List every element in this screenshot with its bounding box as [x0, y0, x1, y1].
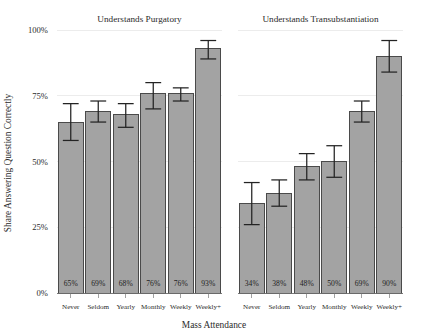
- x-axis-tick-label-yearly: Yearly: [116, 303, 135, 311]
- x-axis-tick-label-weekly: Weekly: [170, 303, 192, 311]
- chart-canvas: 0%25%50%75%100% Share Answering Question…: [0, 0, 425, 331]
- x-axis-tick-label-never: Never: [243, 303, 261, 311]
- bar-never: [58, 122, 83, 293]
- x-axis-tick-label-monthly: Monthly: [322, 303, 347, 311]
- x-axis-tick-label-weekly: Weekly: [351, 303, 373, 311]
- x-axis-tick-label-weekly-plus: Weekly+: [377, 303, 403, 311]
- y-axis-tick-label: 0%: [37, 288, 48, 298]
- bar-value-label: 93%: [201, 279, 216, 288]
- y-axis-tick-label: 25%: [32, 222, 48, 232]
- x-axis-title: Mass Attendance: [182, 320, 246, 330]
- bar-value-label: 69%: [355, 279, 370, 288]
- y-axis-tick-label: 100%: [28, 25, 48, 35]
- bar-value-label: 50%: [327, 279, 342, 288]
- bar-value-label: 34%: [245, 279, 260, 288]
- bar-value-label: 76%: [174, 279, 189, 288]
- bar-value-label: 65%: [64, 279, 79, 288]
- bar-value-label: 76%: [146, 279, 161, 288]
- bar-value-label: 48%: [300, 279, 315, 288]
- bar-monthly: [322, 162, 347, 294]
- bar-monthly: [141, 93, 166, 293]
- bar-weekly-plus: [377, 56, 402, 293]
- bar-seldom: [86, 112, 111, 293]
- bar-chart-figure: 0%25%50%75%100% Share Answering Question…: [0, 0, 425, 331]
- bar-value-label: 69%: [91, 279, 106, 288]
- bar-yearly: [113, 114, 138, 293]
- panel-title: Understands Transubstantiation: [262, 14, 379, 24]
- bar-value-label: 38%: [272, 279, 287, 288]
- bar-value-label: 68%: [119, 279, 134, 288]
- bar-value-label: 90%: [382, 279, 397, 288]
- x-axis-tick-label-yearly: Yearly: [297, 303, 316, 311]
- bar-weekly: [349, 112, 374, 293]
- x-axis-tick-label-monthly: Monthly: [141, 303, 166, 311]
- x-axis-tick-label-never: Never: [62, 303, 80, 311]
- x-axis-tick-label-seldom: Seldom: [87, 303, 109, 311]
- panel-title: Understands Purgatory: [97, 14, 182, 24]
- bar-weekly-plus: [196, 48, 221, 293]
- bar-yearly: [294, 167, 319, 293]
- x-axis-tick-label-seldom: Seldom: [268, 303, 290, 311]
- y-axis-tick-label: 75%: [32, 91, 48, 101]
- bar-weekly: [168, 93, 193, 293]
- bar-seldom: [267, 193, 292, 293]
- y-axis-tick-label: 50%: [32, 157, 48, 167]
- x-axis-tick-label-weekly-plus: Weekly+: [196, 303, 222, 311]
- y-axis-title: Share Answering Question Correctly: [3, 94, 13, 233]
